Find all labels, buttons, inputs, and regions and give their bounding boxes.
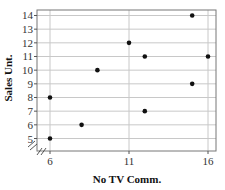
y-axis-title: Sales Unt. bbox=[2, 54, 14, 101]
data-point bbox=[143, 109, 148, 114]
y-tick-label: 14 bbox=[22, 9, 34, 21]
x-tick-label: 11 bbox=[124, 155, 135, 167]
data-point bbox=[48, 136, 53, 141]
y-tick-label: 13 bbox=[22, 23, 34, 35]
x-tick-label: 16 bbox=[203, 155, 215, 167]
y-tick-label: 9 bbox=[28, 78, 34, 90]
data-point bbox=[206, 54, 211, 59]
x-tick-label: 6 bbox=[47, 155, 53, 167]
data-point bbox=[127, 41, 132, 46]
data-point bbox=[79, 123, 84, 128]
y-axis-ticks: 567891011121314 bbox=[22, 9, 37, 144]
y-tick-label: 6 bbox=[28, 119, 34, 131]
y-tick-label: 10 bbox=[22, 64, 34, 76]
data-point bbox=[190, 82, 195, 87]
data-point bbox=[190, 13, 195, 18]
data-point bbox=[143, 54, 148, 59]
grid-lines bbox=[37, 10, 216, 151]
scatter-chart: 567891011121314 61116 No TV Comm. Sales … bbox=[0, 0, 225, 190]
y-tick-label: 7 bbox=[28, 105, 34, 117]
x-axis-title: No TV Comm. bbox=[93, 173, 162, 185]
y-tick-label: 12 bbox=[22, 37, 33, 49]
y-tick-label: 11 bbox=[22, 50, 33, 62]
y-tick-label: 8 bbox=[28, 91, 34, 103]
plot-area bbox=[37, 10, 216, 151]
data-point bbox=[95, 68, 100, 73]
data-point bbox=[48, 95, 53, 100]
x-axis-ticks: 61116 bbox=[47, 151, 214, 167]
